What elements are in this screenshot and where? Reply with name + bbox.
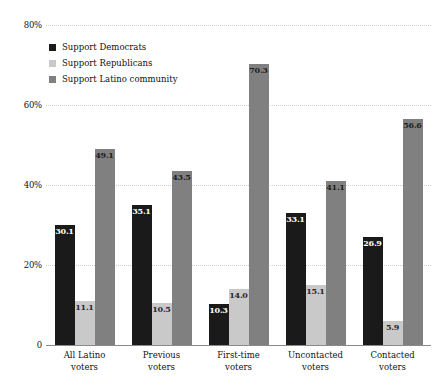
bar-value-label: 49.1 <box>95 151 113 159</box>
bar-value-label: 70.3 <box>249 66 267 74</box>
bar: 70.3 <box>249 64 269 345</box>
bar-value-label: 15.1 <box>306 287 324 295</box>
bar: 43.5 <box>172 171 192 345</box>
bar-value-label: 14.0 <box>229 291 247 299</box>
x-axis-category-label-line: All Latino <box>64 350 106 360</box>
bar: 5.9 <box>383 321 403 345</box>
x-axis-category-label-line: Previous <box>143 350 180 360</box>
bar: 15.1 <box>306 285 326 345</box>
bar: 26.9 <box>363 237 383 345</box>
bar: 30.1 <box>55 225 75 345</box>
y-axis-tick-label: 60% <box>2 100 42 110</box>
x-axis-category-label-line: Uncontacted <box>288 350 343 360</box>
legend-swatch-icon <box>49 60 56 67</box>
y-axis-tick-label: 20% <box>2 260 42 270</box>
x-axis-category-label-line: voters <box>123 361 200 373</box>
bar: 56.6 <box>403 119 423 345</box>
bar-value-label: 33.1 <box>286 215 304 223</box>
x-axis-category-label: First-timevoters <box>200 349 277 374</box>
bar-value-label: 30.1 <box>55 227 73 235</box>
bar-value-label: 11.1 <box>75 303 93 311</box>
y-axis: 020%40%60%80% <box>0 25 42 345</box>
legend-item: Support Latino community <box>49 72 178 86</box>
legend-label: Support Democrats <box>62 42 146 52</box>
bar-group: 26.95.956.6 <box>363 25 423 345</box>
x-axis-category-label: Previousvoters <box>123 349 200 374</box>
bar-value-label: 35.1 <box>132 207 150 215</box>
bar-value-label: 43.5 <box>172 173 190 181</box>
x-axis-category-label-line: voters <box>277 361 354 373</box>
bar-group: 33.115.141.1 <box>286 25 346 345</box>
bar-value-label: 10.3 <box>209 306 227 314</box>
bar-group: 10.314.070.3 <box>209 25 269 345</box>
axis-baseline <box>46 345 431 346</box>
bar-value-label: 10.5 <box>152 305 170 313</box>
legend-item: Support Republicans <box>49 56 178 70</box>
bar: 10.3 <box>209 304 229 345</box>
x-axis-category-label: Contactedvoters <box>354 349 431 374</box>
legend-swatch-icon <box>49 44 56 51</box>
grouped-bar-chart: 020%40%60%80% 30.111.149.135.110.543.510… <box>0 0 441 390</box>
y-axis-tick-label: 40% <box>2 180 42 190</box>
x-axis-category-label-line: voters <box>200 361 277 373</box>
legend-label: Support Latino community <box>62 74 178 84</box>
y-axis-tick-label: 0 <box>2 340 42 350</box>
x-axis-category-label: Uncontactedvoters <box>277 349 354 374</box>
x-axis-category-label-line: Contacted <box>370 350 414 360</box>
x-axis-labels: All LatinovotersPreviousvotersFirst-time… <box>46 349 431 385</box>
bar: 11.1 <box>75 301 95 345</box>
y-axis-tick-label: 80% <box>2 20 42 30</box>
legend-label: Support Republicans <box>62 58 152 68</box>
bar-value-label: 26.9 <box>363 239 381 247</box>
bar-value-label: 41.1 <box>326 183 344 191</box>
x-axis-category-label-line: voters <box>354 361 431 373</box>
bar: 10.5 <box>152 303 172 345</box>
bar-value-label: 56.6 <box>403 121 421 129</box>
bar: 41.1 <box>326 181 346 345</box>
x-axis-category-label: All Latinovoters <box>46 349 123 374</box>
bar: 35.1 <box>132 205 152 345</box>
x-axis-category-label-line: voters <box>46 361 123 373</box>
bar: 49.1 <box>95 149 115 345</box>
legend-swatch-icon <box>49 76 56 83</box>
bar: 33.1 <box>286 213 306 345</box>
bar-value-label: 5.9 <box>386 323 399 331</box>
x-axis-category-label-line: First-time <box>217 350 260 360</box>
legend-item: Support Democrats <box>49 40 178 54</box>
legend: Support DemocratsSupport RepublicansSupp… <box>49 40 178 88</box>
bar: 14.0 <box>229 289 249 345</box>
